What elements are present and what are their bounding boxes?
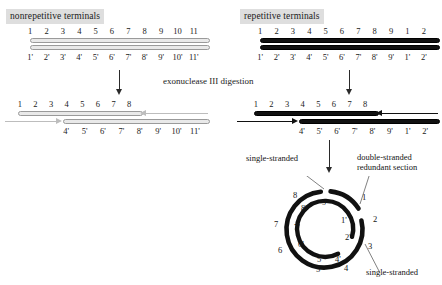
right-digested-bottom-number-3: 6' <box>328 127 346 136</box>
left-duplex-bottom-number-2: 2' <box>38 53 54 62</box>
right-duplex-bottom-number-7: 7' <box>350 53 366 62</box>
left-process-arrow-head <box>116 89 122 95</box>
annotation-double-stranded-line2: redundant section <box>357 162 417 172</box>
right-duplex-strand-top <box>260 38 440 43</box>
right-exo-arrow-bottom-line <box>237 121 293 122</box>
left-duplex-strand-top <box>30 38 210 43</box>
right-digested-bottom-number-4: 7' <box>346 127 364 136</box>
inner-number-4p: 4' <box>335 254 341 264</box>
right-digested-top-number-4: 4 <box>295 100 311 109</box>
left-duplex-top-number-4: 4 <box>71 27 87 36</box>
right-duplex-top-number-1: 1 <box>252 27 268 36</box>
left-digested-bottom-number-4: 7' <box>112 127 130 136</box>
outer-number-3: 3 <box>368 241 372 251</box>
right-duplex-bottom-number-11: 2' <box>416 53 432 62</box>
left-digested-bottom-numbers: 4'5'6'7'8'9'10'11' <box>57 127 204 136</box>
right-duplex-strand-bottom <box>260 45 440 50</box>
left-duplex-top-number-11: 11 <box>186 27 202 36</box>
right-digested-top-number-1: 1 <box>248 100 264 109</box>
right-duplex-bottom-numbers: 1'2'3'4'5'6'7'8'9'1'2' <box>252 53 432 62</box>
right-duplex-bottom-number-6: 6' <box>334 53 350 62</box>
left-duplex-bottom-number-6: 6' <box>104 53 120 62</box>
left-duplex-top-number-2: 2 <box>38 27 54 36</box>
left-panel-title: nonrepetitive terminals <box>6 9 104 24</box>
right-duplex-top-number-6: 6 <box>334 27 350 36</box>
outer-number-5: 5 <box>316 264 320 274</box>
right-digested-bottom-number-7: 1' <box>399 127 417 136</box>
left-digested-top-numbers: 12345678 <box>12 100 137 109</box>
right-duplex-bottom-number-9: 9' <box>383 53 399 62</box>
figure-canvas: nonrepetitive terminals 1234567891011 1'… <box>0 0 442 285</box>
right-exo-arrow-top-line <box>382 113 438 114</box>
left-duplex-top-numbers: 1234567891011 <box>22 27 202 36</box>
left-digested-top-number-8: 8 <box>121 100 137 109</box>
right-digested-top-numbers: 12345678 <box>248 100 373 109</box>
left-duplex-bottom-number-11: 11' <box>186 53 202 62</box>
right-process-arrow-head <box>346 89 352 95</box>
right-duplex-top-number-7: 7 <box>350 27 366 36</box>
outer-number-8: 8 <box>293 190 297 200</box>
left-duplex-bottom-number-1: 1' <box>22 53 38 62</box>
right-digested-bottom-numbers: 4'5'6'7'8'9'1'2' <box>293 127 434 136</box>
right-exo-arrow-bottom-head <box>292 118 298 124</box>
right-digested-top-number-7: 7 <box>342 100 358 109</box>
left-duplex-top-number-9: 9 <box>153 27 169 36</box>
inner-number-6p: 6' <box>298 239 304 249</box>
right-digested-bottom-number-8: 2' <box>416 127 434 136</box>
left-duplex-top-number-10: 10 <box>169 27 185 36</box>
leader-single-stranded-bottom <box>365 244 380 273</box>
right-digested-top-number-3: 3 <box>279 100 295 109</box>
left-digested-bottom-number-3: 6' <box>94 127 112 136</box>
right-duplex-top-number-11: 2 <box>416 27 432 36</box>
left-duplex-top-number-7: 7 <box>120 27 136 36</box>
right-digested-bottom-number-2: 5' <box>311 127 329 136</box>
right-digested-bottom-number-1: 4' <box>293 127 311 136</box>
left-duplex-top-number-3: 3 <box>55 27 71 36</box>
right-duplex-top-number-5: 5 <box>317 27 333 36</box>
left-duplex-bottom-number-3: 3' <box>55 53 71 62</box>
right-duplex-top-number-4: 4 <box>301 27 317 36</box>
left-digested-bottom-number-2: 5' <box>75 127 93 136</box>
right-duplex-bottom-number-1: 1' <box>252 53 268 62</box>
right-duplex-bottom-number-5: 5' <box>317 53 333 62</box>
left-duplex-top-number-1: 1 <box>22 27 38 36</box>
left-digested-bottom-number-8: 11' <box>186 127 204 136</box>
left-process-arrow-line <box>119 70 120 90</box>
right-duplex-bottom-number-8: 8' <box>367 53 383 62</box>
inner-number-2p: 2' <box>345 232 351 242</box>
right-duplex-bottom-number-3: 3' <box>285 53 301 62</box>
right-digested-bottom-number-5: 8' <box>364 127 382 136</box>
left-digested-top-number-4: 4 <box>59 100 75 109</box>
left-digested-bottom-number-7: 10' <box>167 127 185 136</box>
left-digested-bottom-number-6: 9' <box>149 127 167 136</box>
right-digested-bottom-number-6: 9' <box>381 127 399 136</box>
left-digested-top-number-7: 7 <box>106 100 122 109</box>
left-exo-arrow-bottom-line <box>5 121 57 122</box>
right-digested-top-number-2: 2 <box>264 100 280 109</box>
right-duplex-bottom-number-2: 2' <box>268 53 284 62</box>
right-digested-top-number-8: 8 <box>357 100 373 109</box>
right-digested-top-number-6: 6 <box>326 100 342 109</box>
leader-single-stranded-top <box>286 176 324 189</box>
left-exo-arrow-top-line <box>146 113 208 114</box>
left-duplex-top-number-6: 6 <box>104 27 120 36</box>
right-duplex-top-number-3: 3 <box>285 27 301 36</box>
right-duplex-top-number-2: 2 <box>268 27 284 36</box>
left-digested-top-number-1: 1 <box>12 100 28 109</box>
left-duplex-top-number-5: 5 <box>87 27 103 36</box>
right-duplex-top-number-10: 1 <box>399 27 415 36</box>
outer-number-7: 7 <box>274 219 278 229</box>
left-duplex-bottom-number-5: 5' <box>87 53 103 62</box>
left-digested-strand-top <box>18 111 143 116</box>
inner-number-5p: 5' <box>317 254 323 264</box>
left-digested-top-number-6: 6 <box>90 100 106 109</box>
outer-number-2: 2 <box>373 214 377 224</box>
right-exo-arrow-top-head <box>376 110 382 116</box>
left-digested-top-number-3: 3 <box>43 100 59 109</box>
left-duplex-top-number-8: 8 <box>137 27 153 36</box>
left-exo-arrow-top-head <box>140 110 146 116</box>
process-caption: exonuclease III digestion <box>163 76 253 87</box>
left-duplex-strand-bottom <box>30 45 210 50</box>
inner-number-7p: 7' <box>294 222 300 232</box>
left-duplex-bottom-number-4: 4' <box>71 53 87 62</box>
